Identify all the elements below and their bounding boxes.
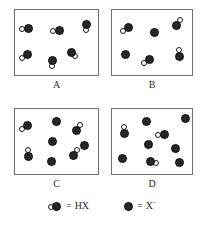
panel-d-label: D bbox=[111, 178, 193, 189]
halide-atom bbox=[172, 21, 181, 30]
legend-species-charge: − bbox=[153, 199, 157, 207]
hx-molecule bbox=[69, 151, 87, 169]
halide-atom bbox=[82, 20, 91, 29]
hx-molecule bbox=[24, 24, 42, 42]
halide-ion bbox=[175, 158, 184, 167]
hx-molecule bbox=[120, 129, 138, 147]
panel-c-container bbox=[14, 108, 99, 175]
hx-molecule bbox=[55, 26, 73, 44]
halide-atom bbox=[146, 157, 155, 166]
hx-molecule bbox=[175, 52, 193, 70]
legend-equals-sign: = bbox=[66, 200, 72, 211]
x-minus-ion bbox=[118, 154, 136, 172]
legend-entry-hx: =HX bbox=[48, 200, 89, 211]
halide-ion bbox=[181, 114, 190, 123]
x-ion-glyph bbox=[124, 201, 134, 211]
halide-ion bbox=[47, 157, 56, 166]
x-minus-ion bbox=[144, 140, 162, 158]
panel-d: D bbox=[111, 108, 193, 197]
panel-d-container bbox=[111, 108, 193, 175]
legend-entry-x-ion: =X− bbox=[124, 200, 157, 211]
halide-atom bbox=[24, 152, 33, 161]
legend-species-formula: HX bbox=[75, 200, 89, 211]
halide-atom bbox=[124, 23, 133, 32]
halide-ion bbox=[142, 117, 151, 126]
halide-atom bbox=[69, 151, 78, 160]
halide-atom bbox=[48, 56, 57, 65]
panel-a-label: A bbox=[14, 79, 99, 90]
halide-ion bbox=[171, 144, 180, 153]
hx-molecule bbox=[172, 21, 190, 39]
molecular-representation-figure: ABCD bbox=[0, 0, 207, 234]
legend-equals-sign: = bbox=[137, 200, 143, 211]
hx-molecule bbox=[124, 23, 142, 41]
halide-atom bbox=[145, 55, 154, 64]
panel-b-container bbox=[111, 9, 193, 76]
x-minus-ion bbox=[48, 137, 66, 155]
halide-ion bbox=[80, 141, 89, 150]
hx-molecule-glyph bbox=[48, 201, 63, 211]
panel-a: A bbox=[14, 9, 99, 98]
halide-atom bbox=[72, 126, 81, 135]
x-minus-ion bbox=[181, 114, 199, 132]
halide-atom bbox=[55, 26, 64, 35]
halide-atom bbox=[23, 50, 32, 59]
panel-c: C bbox=[14, 108, 99, 197]
hx-molecule bbox=[48, 56, 66, 74]
x-minus-ion bbox=[52, 117, 70, 135]
halide-atom bbox=[24, 24, 33, 33]
x-minus-ion bbox=[47, 157, 65, 175]
halide-atom bbox=[67, 48, 76, 57]
halide-ion bbox=[121, 50, 130, 59]
panel-a-container bbox=[14, 9, 99, 76]
halide-ion bbox=[52, 117, 61, 126]
hx-molecule bbox=[145, 55, 163, 73]
x-minus-ion bbox=[150, 28, 168, 46]
halide-ion bbox=[48, 137, 57, 146]
halide-ion bbox=[144, 140, 153, 149]
halide-ion bbox=[124, 202, 133, 211]
panel-b-label: B bbox=[111, 79, 193, 90]
halide-atom bbox=[52, 202, 61, 211]
panel-b: B bbox=[111, 9, 193, 98]
hx-molecule bbox=[24, 152, 42, 170]
hx-molecule bbox=[146, 157, 164, 175]
halide-ion bbox=[118, 154, 127, 163]
panel-c-label: C bbox=[14, 178, 99, 189]
hx-molecule bbox=[67, 48, 85, 66]
halide-atom bbox=[160, 130, 169, 139]
halide-atom bbox=[23, 121, 32, 130]
halide-atom bbox=[175, 52, 184, 61]
hx-molecule bbox=[82, 20, 100, 38]
legend-species-label: X− bbox=[146, 200, 157, 211]
legend-species-label: HX bbox=[75, 200, 89, 211]
hx-molecule bbox=[23, 121, 41, 139]
x-minus-ion bbox=[121, 50, 139, 68]
x-minus-ion bbox=[175, 158, 193, 176]
halide-ion bbox=[150, 28, 159, 37]
legend-species-formula: X bbox=[146, 200, 153, 211]
halide-atom bbox=[120, 129, 129, 138]
hx-molecule bbox=[23, 50, 41, 68]
